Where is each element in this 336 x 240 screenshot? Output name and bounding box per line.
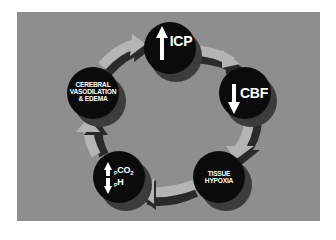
icp-label: ICP [166, 34, 196, 49]
pco2-label: PCO2 [114, 166, 144, 176]
tissue-hypoxia-label: TISSUE HYPOXIA [196, 171, 242, 185]
cerebral-vasodilation-label: CEREBRAL VASODILATION & EDEMA [65, 82, 121, 103]
ph-label: PH [114, 178, 144, 188]
arrow-vasodilation-to-icp [102, 34, 150, 72]
vasodilation-line-3: & EDEMA [65, 96, 121, 103]
cbf-label: CBF [237, 86, 271, 101]
pco2-ph-label: PCO2 PH [114, 166, 144, 189]
tissue-hypoxia-line-2: HYPOXIA [196, 178, 242, 185]
